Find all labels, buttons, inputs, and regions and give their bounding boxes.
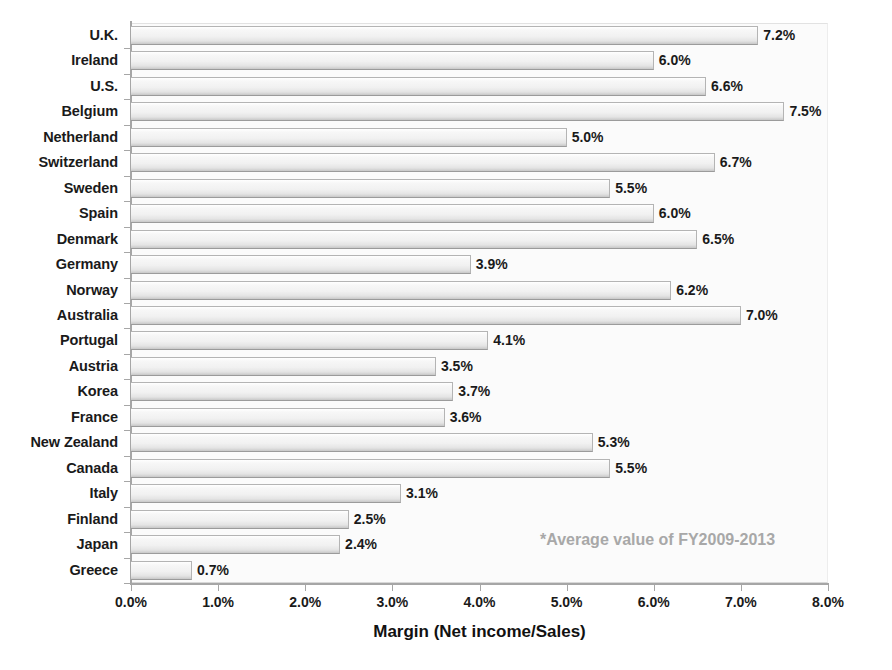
bar-value-label: 7.5% [784,102,821,121]
bar-row: Norway6.2% [0,278,892,303]
x-axis-tick-label: 1.0% [183,594,253,610]
category-label: Canada [0,456,118,481]
bar[interactable] [131,77,706,96]
category-label: New Zealand [0,430,118,455]
bar[interactable] [131,128,567,147]
bar[interactable] [131,306,741,325]
category-label: Italy [0,481,118,506]
bar-wrapper: 7.5% [131,102,784,121]
x-axis-tick [392,584,393,591]
bar-wrapper: 5.3% [131,433,593,452]
bar-wrapper: 3.1% [131,484,401,503]
bar-value-label: 5.5% [610,179,647,198]
category-label: Denmark [0,227,118,252]
bar-wrapper: 3.7% [131,382,453,401]
x-axis-tick [828,584,829,591]
bar[interactable] [131,357,436,376]
category-label: Greece [0,558,118,583]
bar-value-label: 6.7% [715,153,752,172]
bar[interactable] [131,484,401,503]
bar[interactable] [131,179,610,198]
bar-row: Canada5.5% [0,456,892,481]
bar-wrapper: 0.7% [131,561,192,580]
bar-row: Portugal4.1% [0,328,892,353]
bar-value-label: 0.7% [192,561,229,580]
category-label: Sweden [0,176,118,201]
bar[interactable] [131,51,654,70]
bar-value-label: 7.2% [758,26,795,45]
bar-row: Germany3.9% [0,252,892,277]
bar[interactable] [131,459,610,478]
bar-value-label: 3.1% [401,484,438,503]
bar-row: Denmark6.5% [0,227,892,252]
bar[interactable] [131,433,593,452]
y-axis-tick [124,405,131,406]
y-axis-tick [124,583,131,584]
bar[interactable] [131,255,471,274]
x-axis-tick-label: 4.0% [445,594,515,610]
bar-row: Sweden5.5% [0,176,892,201]
bar[interactable] [131,408,445,427]
x-axis-title: Margin (Net income/Sales) [131,622,828,642]
y-axis-tick [124,481,131,482]
x-axis-tick [305,584,306,591]
category-label: Spain [0,201,118,226]
bar-row: Belgium7.5% [0,99,892,124]
x-axis-tick [741,584,742,591]
bar-wrapper: 7.2% [131,26,758,45]
bar[interactable] [131,26,758,45]
y-axis-tick [124,176,131,177]
bar-row: Spain6.0% [0,201,892,226]
x-axis-tick-label: 8.0% [793,594,863,610]
y-axis-tick [124,303,131,304]
bar-value-label: 6.5% [697,230,734,249]
bar[interactable] [131,535,340,554]
x-axis-tick-label: 5.0% [532,594,602,610]
category-label: Netherland [0,125,118,150]
x-axis-tick [567,584,568,591]
bar-row: New Zealand5.3% [0,430,892,455]
bar-row: Korea3.7% [0,379,892,404]
bar[interactable] [131,331,488,350]
y-axis-tick [124,507,131,508]
y-axis-tick [124,252,131,253]
bar[interactable] [131,102,784,121]
y-axis-tick [124,150,131,151]
bar[interactable] [131,230,697,249]
category-label: Portugal [0,328,118,353]
category-label: France [0,405,118,430]
category-label: Finland [0,507,118,532]
x-axis-tick-label: 6.0% [619,594,689,610]
category-label: Switzerland [0,150,118,175]
bar-value-label: 3.6% [445,408,482,427]
y-axis-tick [124,278,131,279]
x-axis-tick-label: 3.0% [357,594,427,610]
bar-wrapper: 5.5% [131,459,610,478]
bar-wrapper: 6.0% [131,51,654,70]
bar[interactable] [131,281,671,300]
bar-wrapper: 6.0% [131,204,654,223]
bar[interactable] [131,510,349,529]
bar-wrapper: 3.6% [131,408,445,427]
bar-wrapper: 4.1% [131,331,488,350]
bar-value-label: 2.5% [349,510,386,529]
bar[interactable] [131,561,192,580]
bar[interactable] [131,153,715,172]
bar-wrapper: 6.6% [131,77,706,96]
category-label: Norway [0,278,118,303]
category-label: Germany [0,252,118,277]
bar-row: Ireland6.0% [0,48,892,73]
x-axis-tick [218,584,219,591]
bar-row: Switzerland6.7% [0,150,892,175]
y-axis-tick [124,125,131,126]
bar[interactable] [131,204,654,223]
bar-row: Greece0.7% [0,558,892,583]
bar-row: U.K.7.2% [0,23,892,48]
bar-wrapper: 3.5% [131,357,436,376]
bar[interactable] [131,382,453,401]
bar-value-label: 3.5% [436,357,473,376]
x-axis-tick-label: 2.0% [270,594,340,610]
y-axis-tick [124,379,131,380]
bar-wrapper: 6.2% [131,281,671,300]
category-label: U.K. [0,23,118,48]
